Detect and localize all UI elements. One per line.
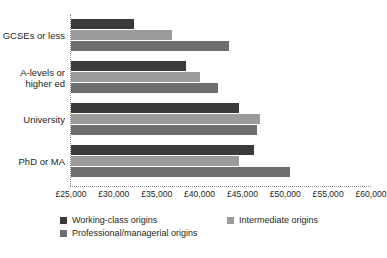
x-tick-label: £55,000 <box>313 189 344 199</box>
bar[interactable] <box>71 72 200 82</box>
category-label: A-levels orhigher ed <box>0 67 65 89</box>
x-tick-label: £60,000 <box>355 189 386 199</box>
x-axis-tick-labels: £25,000£30,000£35,000£40,000£45,000£50,0… <box>71 189 371 203</box>
x-tick-label: £30,000 <box>98 189 129 199</box>
legend-item-working-class[interactable]: Working-class origins <box>60 215 157 225</box>
x-tick-label: £40,000 <box>184 189 215 199</box>
bar[interactable] <box>71 103 239 113</box>
category-label: GCSEs or less <box>0 30 65 41</box>
legend-item-intermediate[interactable]: Intermediate origins <box>227 215 318 225</box>
bar[interactable] <box>71 125 257 135</box>
bar[interactable] <box>71 145 254 155</box>
legend-swatch-icon <box>227 217 234 224</box>
bar-group <box>71 103 371 136</box>
category-label: University <box>0 114 65 125</box>
legend-swatch-icon <box>60 230 67 237</box>
legend-label: Working-class origins <box>72 215 157 225</box>
x-tick-label: £45,000 <box>227 189 258 199</box>
legend-label: Professional/managerial origins <box>72 228 198 238</box>
bar-group <box>71 19 371 52</box>
bar[interactable] <box>71 19 134 29</box>
bar[interactable] <box>71 30 172 40</box>
bar-group <box>71 61 371 94</box>
chart-legend: Working-class origins Intermediate origi… <box>60 215 360 245</box>
x-tick-label: £50,000 <box>270 189 301 199</box>
x-axis-line <box>70 186 371 187</box>
bar[interactable] <box>71 156 239 166</box>
legend-item-professional-managerial[interactable]: Professional/managerial origins <box>60 228 198 238</box>
bar[interactable] <box>71 167 290 177</box>
bar[interactable] <box>71 83 218 93</box>
x-tick-label: £35,000 <box>141 189 172 199</box>
bar[interactable] <box>71 41 229 51</box>
category-label: PhD or MA <box>0 156 65 167</box>
bar[interactable] <box>71 61 186 71</box>
legend-label: Intermediate origins <box>239 215 318 225</box>
bar-group <box>71 145 371 178</box>
plot-area <box>71 14 371 186</box>
x-tick-label: £25,000 <box>55 189 86 199</box>
bar[interactable] <box>71 114 260 124</box>
legend-swatch-icon <box>60 217 67 224</box>
